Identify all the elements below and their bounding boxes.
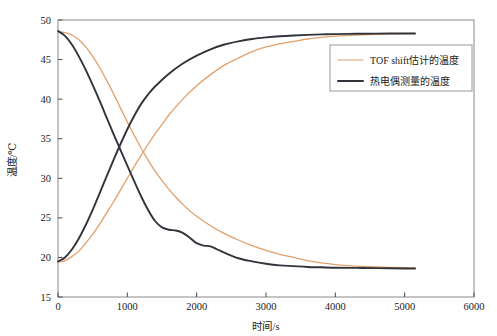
x-tick-label: 0 [55,301,60,312]
x-tick-label: 3000 [256,301,277,312]
x-axis-title: 时间/s [252,320,279,332]
y-tick-label: 45 [41,54,52,65]
y-tick-label: 15 [41,292,52,303]
legend-label-tof: TOF shift估计的温度 [370,54,459,66]
chart-legend: TOF shift估计的温度热电偶测量的温度 [330,45,472,91]
y-axis-title: 温度/℃ [6,142,18,177]
x-tick-label: 5000 [394,301,415,312]
x-tick-label: 6000 [464,301,485,312]
y-tick-label: 50 [41,15,52,26]
y-tick-label: 30 [41,173,52,184]
y-tick-label: 35 [41,133,52,144]
temperature-line-chart: 0100020003000400050006000 15202530354045… [0,0,497,336]
legend-label-thermocouple: 热电偶测量的温度 [370,75,450,87]
x-tick-label: 2000 [186,301,207,312]
y-tick-label: 25 [41,212,52,223]
x-tick-label: 4000 [325,301,346,312]
x-tick-label: 1000 [117,301,138,312]
y-tick-label: 20 [41,252,52,263]
y-tick-label: 40 [41,94,52,105]
chart-figure: 0100020003000400050006000 15202530354045… [0,0,497,336]
